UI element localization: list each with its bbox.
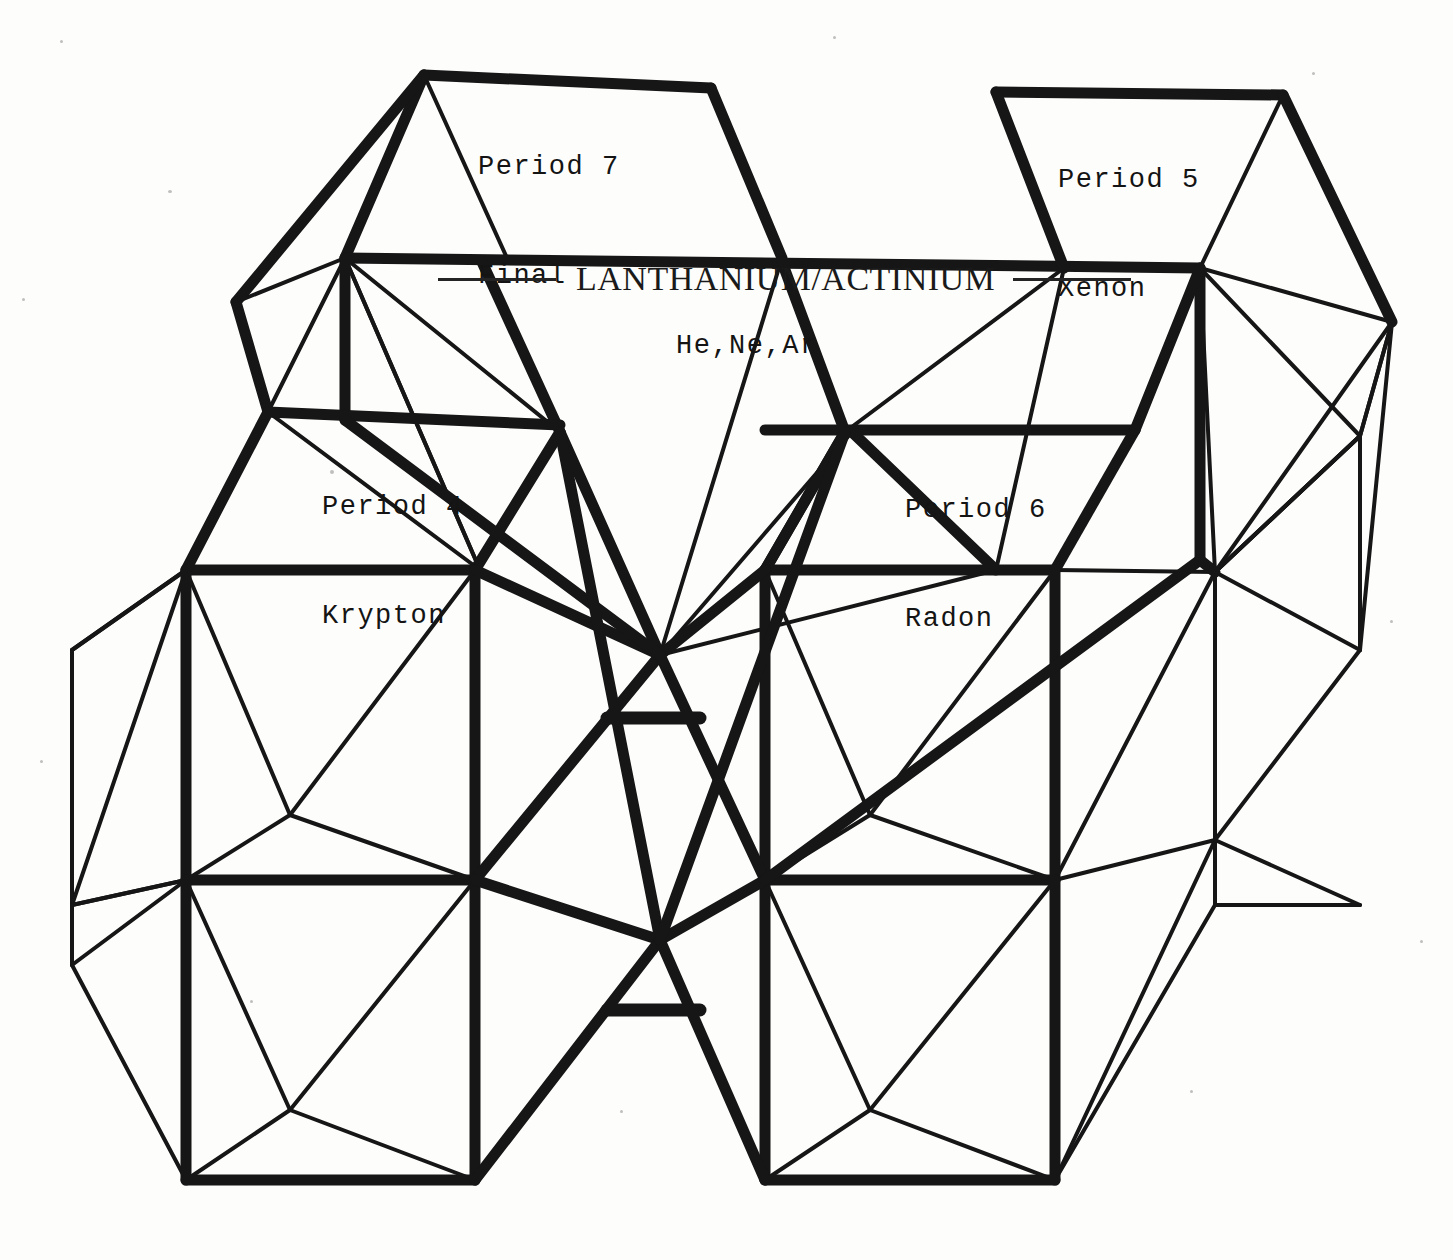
scan-speck [22, 298, 25, 301]
scan-speck [168, 190, 172, 193]
lanthanium-actinium-band: LANTHANIUM/ACTINIUM [438, 260, 1131, 298]
label-period-7: Period 7 Final [478, 100, 620, 344]
period-6-element: Radon [905, 606, 1047, 633]
label-period-5: Period 5 Xenon [1058, 113, 1200, 357]
scan-speck [833, 36, 836, 39]
scan-speck [40, 760, 43, 763]
scan-speck [330, 470, 334, 474]
scan-speck [1420, 940, 1423, 943]
scan-speck [60, 40, 63, 43]
scan-speck [250, 1000, 253, 1003]
scan-speck [1390, 620, 1393, 623]
period-7-title: Period 7 [478, 154, 620, 181]
scan-speck [1190, 1090, 1193, 1093]
scan-speck [1312, 72, 1315, 75]
noble-gases-label: He,Ne,Ar [676, 331, 818, 361]
diagram-canvas: Period 7 Final Period 5 Xenon Period 4 K… [0, 0, 1453, 1260]
period-4-element: Krypton [322, 603, 464, 630]
scan-speck [620, 1110, 623, 1113]
label-period-4: Period 4 Krypton [322, 440, 464, 684]
band-rule-left-icon [438, 278, 556, 281]
period-5-title: Period 5 [1058, 167, 1200, 194]
period-6-title: Period 6 [905, 497, 1047, 524]
lattice-drawing [0, 0, 1453, 1260]
period-4-title: Period 4 [322, 494, 464, 521]
label-period-6: Period 6 Radon [905, 443, 1047, 687]
lanthanium-actinium-text: LANTHANIUM/ACTINIUM [576, 260, 995, 298]
band-rule-right-icon [1013, 278, 1131, 281]
